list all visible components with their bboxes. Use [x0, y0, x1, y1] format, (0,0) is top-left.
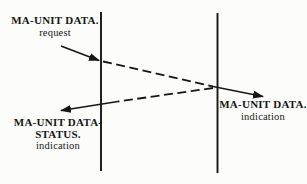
request-transit-dashed-line [103, 62, 213, 87]
status-label: MA-UNIT DATA- STATUS. indication [9, 117, 107, 152]
indication-primitive-text: MA-UNIT DATA. [219, 99, 307, 111]
sequence-diagram: MA-UNIT DATA. request MA-UNIT DATA- STAT… [0, 0, 307, 184]
indication-label: MA-UNIT DATA. indication [219, 99, 307, 122]
status-arrow [61, 102, 118, 111]
request-label: MA-UNIT DATA. request [6, 15, 104, 38]
status-transit-dashed-line [118, 88, 213, 102]
request-primitive-text: MA-UNIT DATA. [6, 15, 104, 27]
status-primitive-line1-text: MA-UNIT DATA- [9, 117, 107, 129]
status-qualifier-text: indication [9, 140, 107, 152]
indication-qualifier-text: indication [219, 111, 307, 123]
request-qualifier-text: request [6, 27, 104, 39]
request-arrow [61, 46, 99, 61]
status-primitive-line2-text: STATUS. [9, 129, 107, 141]
indication-arrow [213, 87, 263, 97]
